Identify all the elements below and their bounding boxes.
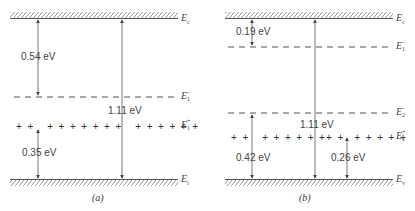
donor-plus-row-a: + + + + + + + + + + + + + + + [16,122,198,132]
label-ev-a: Ei [181,174,189,186]
label-e1-minus-a: E−1 [181,91,193,101]
label-ev-b: Ev [396,174,405,186]
conduction-band-edge-b [225,12,393,19]
label-e1-minus-b: E−1 [396,41,408,51]
panel-a [10,12,178,186]
conduction-band-edge-a [10,12,178,19]
donor-plus-row-b-left: + + + + + + + + [231,133,325,143]
energy-label-0.42ev: 0.42 eV [236,153,270,163]
energy-label-0.19ev: 0.19 eV [236,27,270,37]
label-ec-b: Ec [396,13,405,25]
valence-band-edge-b [225,180,393,187]
donor-plus-row-b-right: + + + + + + + [326,133,406,143]
caption-b: (b) [299,192,311,203]
energy-label-0.26ev: 0.26 eV [331,153,365,163]
energy-label-gap-a: 1.11 eV [108,106,142,116]
energy-label-0.54ev: 0.54 eV [21,52,55,62]
label-e2-minus-b: E−2 [396,107,408,117]
energy-label-0.35ev: 0.35 eV [22,148,56,158]
label-ec-a: Ec [181,13,190,25]
energy-label-gap-b: 1.11 eV [300,120,334,130]
energy-band-diagram [0,0,415,211]
caption-a: (a) [92,192,104,203]
label-e1-plus-b: E+1 [396,131,408,141]
label-e1-plus-a: E+1 [181,120,193,130]
valence-band-edge-a [10,180,178,187]
